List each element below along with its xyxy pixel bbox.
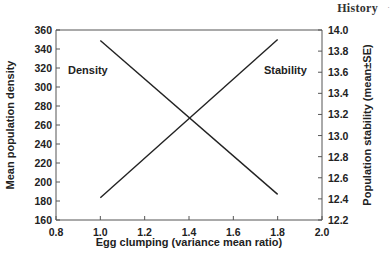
y-tick-label: 300 bbox=[34, 81, 52, 93]
y-tick-label: 180 bbox=[34, 195, 52, 207]
x-axis: 0.81.01.21.41.61.82.0 bbox=[49, 216, 330, 238]
y-tick-label: 260 bbox=[34, 119, 52, 131]
x-axis-title: Egg clumping (variance mean ratio) bbox=[96, 236, 283, 248]
y2-tick-label: 12.8 bbox=[328, 151, 349, 163]
y2-tick-label: 12.6 bbox=[328, 172, 349, 184]
y-tick-label: 240 bbox=[34, 138, 52, 150]
y2-tick-label: 12.2 bbox=[328, 214, 349, 226]
y-tick-label: 280 bbox=[34, 100, 52, 112]
y-tick-label: 160 bbox=[34, 214, 52, 226]
y-tick-label: 220 bbox=[34, 157, 52, 169]
x-tick-label: 2.0 bbox=[315, 226, 330, 238]
y2-tick-label: 13.4 bbox=[328, 87, 349, 99]
series-label-stability: Stability bbox=[264, 64, 308, 76]
y-axis-right-title: Population stability (mean±SE) bbox=[361, 44, 373, 206]
y2-tick-label: 13.0 bbox=[328, 130, 349, 142]
y-tick-label: 200 bbox=[34, 176, 52, 188]
y-tick-label: 320 bbox=[34, 62, 52, 74]
y-tick-label: 340 bbox=[34, 43, 52, 55]
y2-tick-label: 13.8 bbox=[328, 45, 349, 57]
y2-tick-label: 13.2 bbox=[328, 108, 349, 120]
y2-tick-label: 14.0 bbox=[328, 24, 349, 36]
plot-frame bbox=[56, 30, 322, 220]
series-label-density: Density bbox=[68, 64, 109, 76]
chart: 0.81.01.21.41.61.82.0 160180200220240260… bbox=[0, 0, 392, 269]
y-axis-left-title: Mean population density bbox=[4, 60, 16, 190]
series-group bbox=[100, 40, 277, 198]
y-axis-right: 12.212.412.612.813.013.213.413.613.814.0 bbox=[318, 24, 349, 226]
x-tick-label: 0.8 bbox=[49, 226, 64, 238]
y-tick-label: 360 bbox=[34, 24, 52, 36]
y2-tick-label: 13.6 bbox=[328, 66, 349, 78]
y2-tick-label: 12.4 bbox=[328, 193, 349, 205]
